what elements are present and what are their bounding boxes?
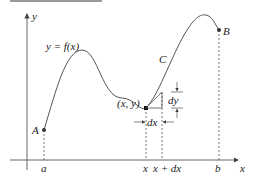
tick-label-x: x (142, 162, 148, 174)
y-axis-label: y (31, 10, 37, 22)
dy-label: dy (168, 94, 179, 106)
tick-label-x-plus-dx: x + dx (152, 162, 181, 174)
tick-label-b: b (215, 162, 221, 174)
arc-length-diagram: y x y = f(x) C A B (x, y) dy dx a x x + … (0, 0, 254, 185)
curve-name-label: C (159, 53, 167, 65)
dx-label: dx (147, 116, 158, 128)
x-axis-label: x (239, 162, 245, 174)
equation-label: y = f(x) (45, 40, 79, 53)
point-b (217, 28, 221, 32)
differential-triangle (146, 92, 162, 108)
point-a (42, 128, 46, 132)
point-b-label: B (223, 25, 230, 37)
point-xy-label: (x, y) (117, 97, 140, 110)
tick-label-a: a (41, 162, 47, 174)
curve-c (44, 15, 219, 130)
point-a-label: A (31, 124, 39, 136)
